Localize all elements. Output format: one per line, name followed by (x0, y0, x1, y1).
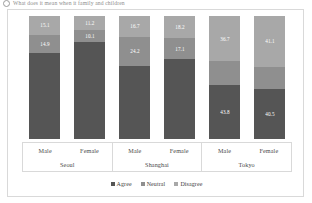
axis-label-seoul: Seoul (22, 157, 113, 172)
bar-segment-agree: 40.5 (254, 89, 285, 139)
legend-item-agree[interactable]: Agree (111, 181, 132, 187)
bar-seoul-female[interactable]: 11.2 10.1 (74, 16, 105, 139)
bar-segment-neutral: 14.9 (29, 35, 60, 53)
legend-item-disagree[interactable]: Disagree (174, 181, 202, 187)
bar-group-tokyo: 36.7 43.8 41.1 40.5 (202, 16, 292, 139)
legend-swatch-icon (174, 182, 178, 186)
bullet-icon (3, 0, 10, 7)
bar-segment-agree (119, 66, 150, 139)
axis-label-shanghai-male: Male (113, 143, 157, 157)
chart-frame: 15.1 14.9 11.2 10.1 16.7 24.2 1 (7, 9, 304, 197)
bar-tokyo-male[interactable]: 36.7 43.8 (209, 16, 240, 139)
bar-segment-neutral (254, 67, 285, 90)
bar-shanghai-female[interactable]: 18.2 17.1 (164, 16, 195, 139)
bar-segment-neutral (209, 61, 240, 85)
legend-label-disagree: Disagree (180, 181, 202, 187)
bar-seoul-male[interactable]: 15.1 14.9 (29, 16, 60, 139)
axis-group-tokyo: Male Female (202, 143, 292, 157)
chart-title-row: What does it mean when it family and chi… (0, 0, 312, 8)
bar-tokyo-female[interactable]: 41.1 40.5 (254, 16, 285, 139)
bar-group-seoul: 15.1 14.9 11.2 10.1 (22, 16, 112, 139)
legend-swatch-icon (141, 182, 145, 186)
chart-legend: Agree Neutral Disagree (8, 178, 305, 190)
chart-page: What does it mean when it family and chi… (0, 0, 312, 203)
bar-segment-disagree: 36.7 (209, 16, 240, 61)
plot-area: 15.1 14.9 11.2 10.1 16.7 24.2 1 (22, 16, 292, 139)
bar-segment-neutral: 10.1 (74, 30, 105, 42)
bar-segment-disagree: 18.2 (164, 16, 195, 38)
bar-segment-agree (29, 53, 60, 139)
axis-label-shanghai: Shanghai (113, 157, 203, 172)
bar-segment-disagree: 16.7 (119, 16, 150, 37)
axis-label-shanghai-female: Female (157, 143, 201, 157)
bar-segment-agree (74, 42, 105, 139)
axis-label-seoul-male: Male (23, 143, 67, 157)
legend-label-neutral: Neutral (147, 181, 166, 187)
axis-label-seoul-female: Female (67, 143, 111, 157)
axis-group-shanghai: Male Female (113, 143, 203, 157)
axis-label-tokyo-male: Male (202, 143, 246, 157)
bar-segment-disagree: 15.1 (29, 16, 60, 35)
bar-segment-disagree: 11.2 (74, 16, 105, 30)
bar-shanghai-male[interactable]: 16.7 24.2 (119, 16, 150, 139)
bar-group-shanghai: 16.7 24.2 18.2 17.1 (112, 16, 202, 139)
bar-segment-neutral: 17.1 (164, 38, 195, 59)
axis-label-tokyo: Tokyo (202, 157, 292, 172)
legend-item-neutral[interactable]: Neutral (141, 181, 166, 187)
axis-row-subgroups: Male Female Male Female Male Female (22, 142, 292, 157)
axis-row-groups: Seoul Shanghai Tokyo (22, 157, 292, 172)
bar-segment-disagree: 41.1 (254, 16, 285, 67)
legend-swatch-icon (111, 182, 115, 186)
page-title: What does it mean when it family and chi… (13, 0, 125, 7)
category-axis: Male Female Male Female Male Female Seou… (22, 142, 292, 174)
axis-group-seoul: Male Female (22, 143, 113, 157)
axis-label-tokyo-female: Female (247, 143, 291, 157)
legend-label-agree: Agree (117, 181, 132, 187)
bar-segment-agree (164, 59, 195, 139)
bar-segment-agree: 43.8 (209, 85, 240, 139)
bar-segment-neutral: 24.2 (119, 37, 150, 67)
